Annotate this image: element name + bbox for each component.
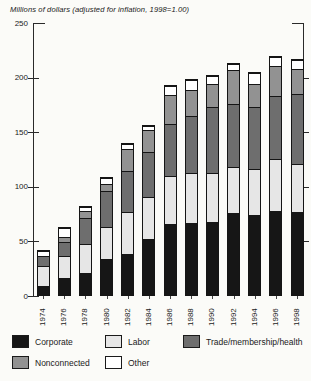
x-axis-tick [43,296,44,299]
bar-segment-trade-membership-health [59,242,70,256]
bar-segment-corporate [80,273,91,295]
bar-segment-corporate [186,223,197,295]
bar-segment-labor [122,212,133,253]
bar-1986 [164,85,177,296]
bar-segment-trade-membership-health [292,94,303,164]
x-axis-label: 1998 [292,300,302,326]
bar-1990 [206,75,219,296]
bar-segment-labor [186,173,197,223]
x-axis-tick [107,296,108,299]
bar-segment-corporate [228,213,239,295]
bar-segment-labor [249,169,260,215]
bar-segment-labor [228,167,239,213]
y-axis-label: 250 [6,19,28,28]
x-axis-label: 1974 [38,300,48,326]
bar-segment-trade-membership-health [249,107,260,169]
bar-1998 [291,59,304,296]
x-axis-label: 1994 [250,300,260,326]
bar-segment-trade-membership-health [207,107,218,173]
bar-segment-trade-membership-health [38,256,49,266]
bar-segment-trade-membership-health [122,171,133,212]
bar-segment-nonconnected [143,130,154,152]
bar-segment-labor [80,244,91,273]
bar-segment-labor [143,197,154,240]
bar-segment-other [249,73,260,84]
y-axis-tick-left [28,296,39,297]
bar-segment-trade-membership-health [165,124,176,176]
chart-title: Millions of dollars (adjusted for inflat… [10,5,189,14]
legend-label-other: Other [128,358,149,368]
bar-1988 [185,79,198,296]
legend-label-labor: Labor [128,337,150,347]
x-axis-tick [64,296,65,299]
x-axis-tick [255,296,256,299]
y-axis-label: 200 [6,73,28,82]
bar-segment-corporate [59,278,70,295]
x-axis-label: 1982 [123,300,133,326]
bar-segment-other [165,86,176,95]
bar-segment-trade-membership-health [228,104,239,167]
bar-segment-other [186,80,197,90]
y-axis-label: 100 [6,182,28,191]
x-axis-tick [128,296,129,299]
x-axis-tick [85,296,86,299]
pac-stacked-bar-chart-figure: Millions of dollars (adjusted for inflat… [0,0,311,381]
bar-segment-corporate [101,259,112,295]
x-axis-label: 1978 [80,300,90,326]
x-axis-label: 1988 [186,300,196,326]
x-axis-label: 1984 [144,300,154,326]
bar-segment-trade-membership-health [101,191,112,227]
x-axis-label: 1980 [102,300,112,326]
legend-swatch-other [105,356,122,369]
bar-segment-labor [292,164,303,212]
bar-segment-labor [101,227,112,259]
bar-1976 [58,227,71,296]
legend-swatch-labor [105,335,122,348]
bar-segment-nonconnected [101,184,112,192]
x-axis-tick [234,296,235,299]
bar-1984 [142,125,155,296]
top-left-corner-stub [33,23,45,24]
top-right-corner-stub [292,23,304,24]
bar-segment-labor [38,266,49,287]
x-axis-tick [212,296,213,299]
bar-segment-corporate [292,212,303,295]
bar-segment-corporate [249,215,260,295]
bar-segment-nonconnected [292,69,303,94]
x-axis-tick [191,296,192,299]
bar-segment-other [59,228,70,237]
x-axis-tick [297,296,298,299]
x-axis-label: 1976 [59,300,69,326]
y-axis-tick-left [28,132,39,133]
bar-segment-corporate [165,224,176,295]
bar-segment-trade-membership-health [80,218,91,244]
y-axis-label: 0 [6,292,28,301]
bar-segment-labor [270,159,281,211]
bar-1974 [37,250,50,296]
legend-swatch-nonconnected [12,356,29,369]
bar-segment-other [292,60,303,69]
bar-segment-corporate [38,286,49,295]
bar-segment-nonconnected [228,70,239,104]
bar-segment-nonconnected [270,66,281,97]
legend-swatch-trade-membership-health [183,335,200,348]
bar-segment-corporate [207,222,218,295]
bar-1992 [227,63,240,297]
x-axis-label: 1986 [165,300,175,326]
bar-segment-trade-membership-health [143,152,154,197]
bar-segment-other [270,57,281,66]
bar-1996 [269,56,282,296]
bar-segment-nonconnected [165,95,176,123]
bar-segment-labor [207,173,218,222]
bar-1982 [121,143,134,296]
y-axis-line-left [33,23,34,296]
bar-segment-labor [59,256,70,278]
bar-1978 [79,206,92,296]
bar-segment-trade-membership-health [270,96,281,158]
bar-segment-nonconnected [207,84,218,107]
bar-segment-corporate [122,254,133,295]
y-axis-tick-left [28,241,39,242]
x-axis-tick [276,296,277,299]
x-axis-tick [149,296,150,299]
x-axis-label: 1990 [207,300,217,326]
